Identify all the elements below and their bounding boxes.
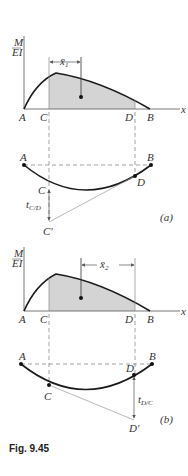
elastic-curve-b: A B C D D' tD/C (b)	[18, 314, 173, 434]
panel-tag-b: (b)	[160, 413, 173, 426]
point-d-label: D	[124, 111, 133, 123]
dot-b-a	[149, 163, 153, 167]
elastic-curve-a: A B C D C' tC/D (a)	[19, 112, 173, 237]
beam-c-label-b: C	[44, 390, 52, 402]
panel-tag-a: (a)	[160, 211, 173, 224]
shaded-area-b	[49, 274, 135, 311]
tangent-at-c	[49, 385, 134, 420]
moment-diagram-b: x̄2 M EI x A C D B	[11, 247, 186, 325]
figure-caption: Fig. 9.45	[9, 443, 49, 454]
moment-diagram-a: x̄1 M EI x A C D B	[11, 36, 186, 123]
dot-c-b	[47, 383, 51, 387]
figure-svg: x̄1 M EI x A C D B A B C D C' tC/D (a)	[0, 0, 188, 476]
dot-a-b	[19, 362, 23, 366]
beam-a-label-b: A	[18, 350, 26, 362]
shaded-area-a	[49, 73, 135, 109]
beam-d-label: D	[136, 176, 145, 188]
ei-label-b: EI	[11, 257, 24, 269]
beam-b-label-b: B	[149, 350, 156, 362]
x-label-a: x	[180, 103, 186, 115]
beam-a-label: A	[19, 151, 27, 163]
point-c-label: C	[40, 111, 48, 123]
dot-b-b	[150, 362, 154, 366]
centroid-dot-b	[79, 296, 83, 300]
beam-cprime-label: C'	[43, 225, 53, 237]
point-b-label-b: B	[147, 313, 154, 325]
point-d-label-b: D	[124, 313, 133, 325]
tangent-at-d	[49, 176, 135, 222]
tdc-label: tD/C	[138, 393, 153, 407]
xbar1-label: x̄1	[59, 55, 68, 69]
centroid-dot-a	[79, 95, 83, 99]
dot-a-a	[22, 163, 26, 167]
point-a-label: A	[18, 111, 26, 123]
x-label-b: x	[180, 305, 186, 317]
beam-dprime-label: D'	[128, 422, 140, 434]
beam-c-label: C	[38, 184, 46, 196]
point-c-label-b: C	[40, 313, 48, 325]
tcd-label: tC/D	[26, 198, 41, 212]
point-a-label-b: A	[18, 313, 26, 325]
beam-d-label-b: D	[125, 362, 134, 374]
ei-label-a: EI	[11, 46, 24, 58]
beam-b-label: B	[147, 151, 154, 163]
point-b-label: B	[147, 111, 154, 123]
